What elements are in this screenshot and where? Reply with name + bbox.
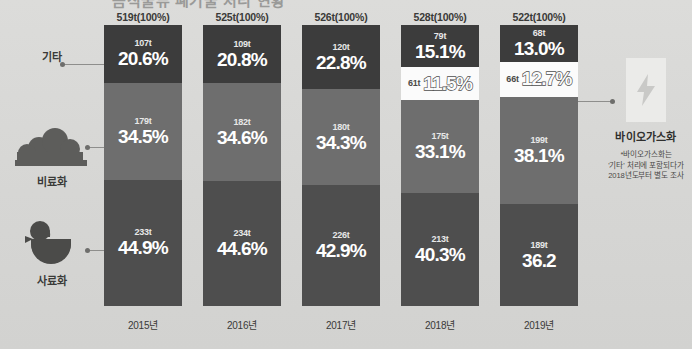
column-total-2015: 519t(100%) <box>104 9 182 25</box>
segment-pct: 34.6% <box>217 128 267 148</box>
bar-2015: 107t 20.6% 179t 34.5% 233t 44.9% <box>104 25 182 306</box>
axis-label-2019: 2019년 <box>500 317 578 332</box>
annotation-note-line-3: 2018년도부터 별도 조사 <box>600 171 692 182</box>
infographic-canvas: 음식물류 폐기물 처리 현황 기타 비료화 <box>0 0 692 349</box>
segment-tons: 189t <box>530 240 547 251</box>
leader-line-etc <box>62 64 108 65</box>
segment-pct: 11.5% <box>423 74 472 94</box>
segment-etc-2015[interactable]: 107t 20.6% <box>104 25 182 83</box>
segment-tons: 66t <box>506 74 518 85</box>
biogas-annotation: 바이오가스화 *바이오가스화는 '기타' 처리에 포함되다가 2018년도부터 … <box>600 58 692 182</box>
legend-label-etc: 기타 <box>0 48 104 64</box>
column-total-2017: 526t(100%) <box>302 9 380 25</box>
column-total-2019: 522t(100%) <box>500 9 578 25</box>
segment-compost-2015[interactable]: 179t 34.5% <box>104 83 182 180</box>
legend: 기타 비료화 <box>0 0 104 349</box>
segment-pct: 38.1% <box>514 146 564 166</box>
column-total-2018: 528t(100%) <box>401 9 479 25</box>
segment-compost-2018[interactable]: 175t 33.1% <box>401 100 479 193</box>
segment-etc-2019[interactable]: 68t 13.0% <box>500 25 578 62</box>
leader-dot-compost <box>85 145 90 150</box>
bar-column-2016: 525t(100%) 109t 20.8% 182t 34.6% 234t 44… <box>203 9 281 332</box>
bar-column-2017: 526t(100%) 120t 22.8% 180t 34.3% 226t 42… <box>302 9 380 332</box>
bar-2016: 109t 20.8% 182t 34.6% 234t 44.6% <box>203 25 281 306</box>
segment-biogas-2019[interactable]: 66t 12.7% <box>500 62 578 98</box>
legend-label-feed: 사료화 <box>0 272 104 288</box>
segment-etc-2017[interactable]: 120t 22.8% <box>302 25 380 89</box>
segment-pct: 33.1% <box>415 142 465 162</box>
segment-tons: 120t <box>332 42 349 53</box>
legend-item-etc: 기타 <box>0 48 104 64</box>
segment-etc-2018[interactable]: 79t 15.1% <box>401 25 479 67</box>
column-total-2016: 525t(100%) <box>203 9 281 25</box>
segment-compost-2019[interactable]: 199t 38.1% <box>500 97 578 204</box>
leader-dot-etc <box>60 62 65 67</box>
lightning-bolt-icon <box>626 58 666 122</box>
segment-pct: 20.8% <box>217 50 267 70</box>
segment-compost-2016[interactable]: 182t 34.6% <box>203 83 281 180</box>
bar-2018: 79t 15.1% 61t 11.5% 175t 33.1% 213t 40.3… <box>401 25 479 306</box>
segment-pct: 22.8% <box>316 53 366 73</box>
axis-label-2018: 2018년 <box>401 317 479 332</box>
segment-pct: 42.9% <box>316 241 366 261</box>
chicken-icon <box>0 218 104 270</box>
segment-pct: 34.5% <box>118 127 168 147</box>
segment-pct: 15.1% <box>415 42 465 62</box>
bar-column-2019: 522t(100%) 68t 13.0% 66t 12.7% 199t 38.1… <box>500 9 578 332</box>
legend-item-feed: 사료화 <box>0 218 104 288</box>
leader-dot-feed <box>85 248 90 253</box>
annotation-note: *바이오가스화는 '기타' 처리에 포함되다가 2018년도부터 별도 조사 <box>600 150 692 182</box>
bar-2017: 120t 22.8% 180t 34.3% 226t 42.9% <box>302 25 380 306</box>
segment-pct: 12.7% <box>522 69 572 89</box>
segment-feed-2017[interactable]: 226t 42.9% <box>302 185 380 306</box>
annotation-note-line-1: *바이오가스화는 <box>600 150 692 161</box>
annotation-title: 바이오가스화 <box>600 128 692 144</box>
legend-label-compost: 비료화 <box>0 173 104 189</box>
bar-column-2018: 528t(100%) 79t 15.1% 61t 11.5% 175t 33.1… <box>401 9 479 332</box>
legend-item-compost: 비료화 <box>0 118 104 189</box>
segment-etc-2016[interactable]: 109t 20.8% <box>203 25 281 83</box>
axis-label-2017: 2017년 <box>302 317 380 332</box>
segment-feed-2016[interactable]: 234t 44.6% <box>203 181 281 306</box>
segment-pct: 13.0% <box>514 39 564 59</box>
stacked-bar-chart: 519t(100%) 107t 20.6% 179t 34.5% 233t 44… <box>104 9 578 349</box>
segment-pct: 44.9% <box>118 238 168 258</box>
bar-column-2015: 519t(100%) 107t 20.6% 179t 34.5% 233t 44… <box>104 9 182 332</box>
axis-label-2016: 2016년 <box>203 317 281 332</box>
compost-pile-icon <box>0 118 104 170</box>
axis-label-2015: 2015년 <box>104 317 182 332</box>
bar-2019: 68t 13.0% 66t 12.7% 199t 38.1% 189t 36.2 <box>500 25 578 306</box>
segment-pct: 20.6% <box>118 49 168 69</box>
segment-feed-2019[interactable]: 189t 36.2 <box>500 204 578 306</box>
segment-pct: 40.3% <box>415 245 465 265</box>
segment-tons: 61t <box>408 78 420 89</box>
segment-pct: 34.3% <box>316 133 366 153</box>
segment-pct: 44.6% <box>217 239 267 259</box>
segment-feed-2018[interactable]: 213t 40.3% <box>401 193 479 306</box>
annotation-note-line-2: '기타' 처리에 포함되다가 <box>600 161 692 172</box>
segment-pct: 36.2 <box>522 251 556 271</box>
segment-compost-2017[interactable]: 180t 34.3% <box>302 89 380 185</box>
segment-feed-2015[interactable]: 233t 44.9% <box>104 180 182 306</box>
segment-tons: 182t <box>233 117 250 128</box>
page-title: 음식물류 폐기물 처리 현황 <box>112 0 286 9</box>
segment-biogas-2018[interactable]: 61t 11.5% <box>401 67 479 99</box>
